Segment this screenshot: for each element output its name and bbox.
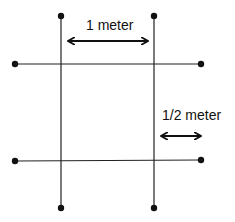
half-meter-label: 1/2 meter [162, 107, 221, 123]
one-meter-label: 1 meter [86, 17, 133, 33]
horizontal-wire-bottom [15, 160, 201, 161]
